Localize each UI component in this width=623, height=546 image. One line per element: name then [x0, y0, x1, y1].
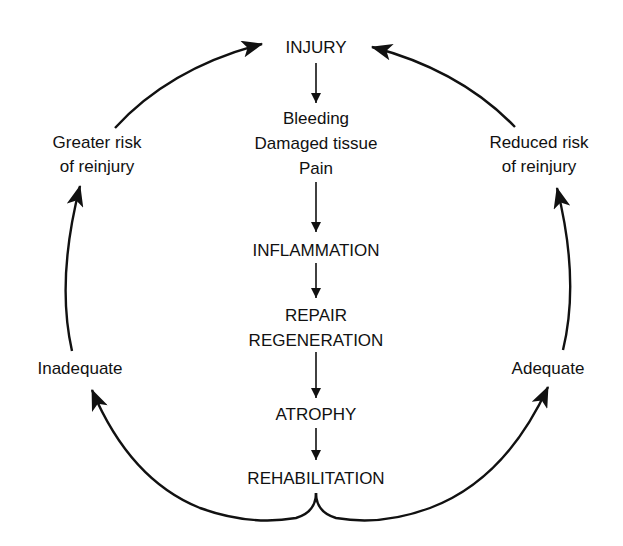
- arrow-greater-risk-to-injury: [115, 44, 262, 128]
- arrow-adequate-to-reduced-risk: [557, 188, 570, 350]
- node-injury: INJURY: [285, 38, 346, 57]
- label-inadequate: Inadequate: [37, 359, 122, 378]
- node-atrophy: ATROPHY: [276, 405, 357, 424]
- label-adequate: Adequate: [512, 359, 585, 378]
- node-inflammation: INFLAMMATION: [252, 241, 379, 260]
- arrow-inadequate-to-greater-risk: [66, 186, 80, 351]
- node-rehabilitation: REHABILITATION: [247, 469, 384, 488]
- node-pain: Pain: [299, 159, 333, 178]
- label-greater-risk: Greater risk: [53, 133, 142, 152]
- label-reduced-risk: Reduced risk: [489, 133, 589, 152]
- label-of-reinjury-right: of reinjury: [502, 157, 577, 176]
- node-bleeding: Bleeding: [283, 109, 349, 128]
- injury-cycle-diagram: INJURY Bleeding Damaged tissue Pain INFL…: [0, 0, 623, 546]
- node-repair: REPAIR: [285, 306, 347, 325]
- node-regeneration: REGENERATION: [249, 331, 384, 350]
- node-damaged-tissue: Damaged tissue: [255, 134, 378, 153]
- arrow-reduced-risk-to-injury: [372, 47, 515, 127]
- label-of-reinjury-left: of reinjury: [60, 157, 135, 176]
